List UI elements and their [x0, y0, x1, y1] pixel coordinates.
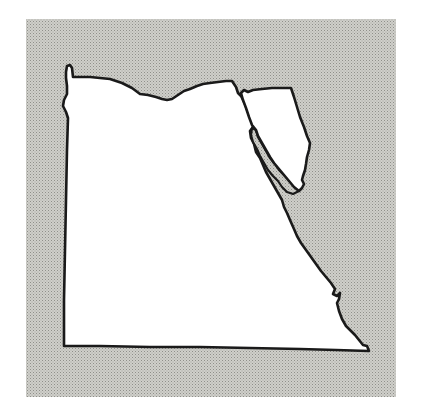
egypt-outline-map [0, 0, 422, 419]
map-canvas: Egypt outline map [0, 0, 422, 419]
